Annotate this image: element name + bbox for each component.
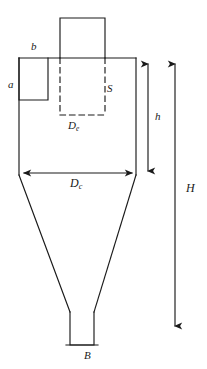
- label-Dc-subscript: c: [79, 182, 83, 191]
- cyclone-diagram: a b S De Dc h H B: [0, 0, 207, 369]
- dust-outlet: [70, 312, 94, 345]
- label-De-subscript: e: [76, 124, 79, 133]
- cyclone-figure-svg: [0, 0, 207, 369]
- label-cyclone-diameter-Dc: Dc: [70, 177, 82, 191]
- label-inlet-height-a: a: [8, 79, 14, 90]
- label-De-base: D: [68, 119, 76, 131]
- cyclone-cone: [19, 175, 136, 312]
- vortex-finder-tube: [60, 18, 105, 58]
- label-vortex-finder-depth-S: S: [107, 83, 113, 94]
- label-gas-outlet-diameter-De: De: [68, 120, 79, 133]
- label-cylinder-height-h: h: [155, 111, 161, 122]
- label-dust-outlet-diameter-B: B: [84, 350, 91, 361]
- label-total-height-H: H: [186, 182, 195, 194]
- label-Dc-base: D: [70, 176, 79, 190]
- cyclone-body-cylinder: [19, 58, 136, 175]
- vortex-finder-hidden-outline: [60, 58, 105, 115]
- inlet-duct: [19, 58, 48, 100]
- label-inlet-width-b: b: [31, 41, 37, 52]
